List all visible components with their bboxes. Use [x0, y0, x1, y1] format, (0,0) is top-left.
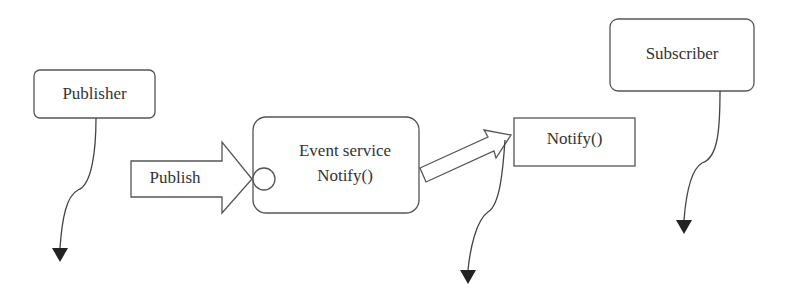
event-service-box [253, 117, 419, 213]
publisher-label: Publisher [34, 84, 155, 104]
subscriber-lifeline [684, 91, 720, 220]
arrowhead-down-icon [52, 248, 68, 262]
publisher-lifeline [60, 118, 96, 248]
notify-label: Notify() [514, 129, 635, 149]
publish-arrow-label: Publish [131, 168, 219, 188]
notify-arrow [420, 130, 511, 182]
arrowhead-down-icon [676, 220, 692, 234]
arrowhead-down-icon [460, 270, 476, 284]
subscriber-label: Subscriber [610, 44, 754, 64]
event-service-title: Event service [265, 141, 425, 161]
event-service-method: Notify() [265, 166, 425, 186]
